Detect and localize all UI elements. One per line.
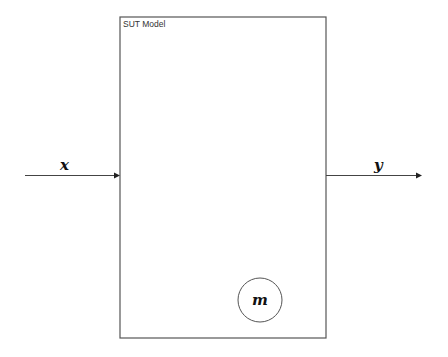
arrow-head-icon bbox=[416, 173, 422, 179]
sut-model-frame bbox=[120, 17, 326, 338]
arrow-head-icon bbox=[114, 173, 120, 179]
parameter-node: m bbox=[238, 278, 282, 322]
output-signal: y bbox=[326, 156, 422, 179]
block-diagram: SUT Model x y m bbox=[0, 0, 448, 357]
parameter-label-m: m bbox=[252, 291, 268, 309]
sut-model-title: SUT Model bbox=[123, 19, 165, 29]
input-label-x: x bbox=[59, 156, 70, 174]
input-signal: x bbox=[25, 156, 120, 179]
output-label-y: y bbox=[373, 156, 384, 174]
sut-model-block: SUT Model bbox=[120, 17, 326, 338]
